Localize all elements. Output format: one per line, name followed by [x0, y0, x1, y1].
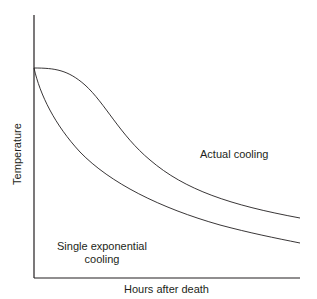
y-axis-label: Temperature	[11, 119, 23, 189]
actual-cooling-curve	[34, 68, 300, 218]
single-exponential-label: Single exponential cooling	[57, 240, 147, 266]
plot-area	[0, 0, 317, 299]
single-exponential-label-line2: cooling	[57, 253, 147, 266]
chart: Temperature Hours after death Actual coo…	[0, 0, 317, 299]
actual-cooling-label: Actual cooling	[200, 148, 269, 160]
single-exponential-label-line1: Single exponential	[57, 240, 147, 253]
x-axis-label: Hours after death	[124, 283, 209, 295]
